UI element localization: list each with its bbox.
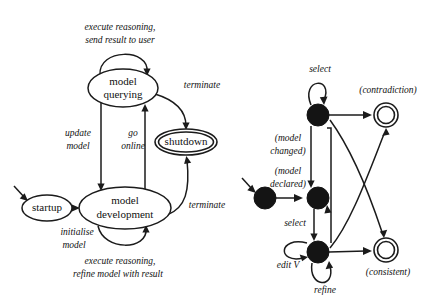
edge-cross-top-to-consistent-path <box>330 120 382 232</box>
edge-label-update-line2: model <box>66 141 90 151</box>
edge-label-model-changed-line1: (model <box>275 133 302 144</box>
edge-terminate-development-arrowhead <box>184 156 191 164</box>
state-model-querying-label-line1: model <box>109 75 137 87</box>
edge-terminate-querying-path <box>155 94 186 126</box>
state-startup-label: startup <box>32 201 62 213</box>
edge-cross-editing-to-contradiction-arrowhead <box>382 128 389 136</box>
edge-to-contradiction <box>329 111 372 119</box>
edge-select-down <box>310 209 317 241</box>
left-diagram-group: model querying model development startup… <box>14 22 225 279</box>
edge-label-model-changed-line2: changed) <box>270 146 305 157</box>
edge-label-execute-send-line2: send result to user <box>85 35 155 45</box>
state-contradiction-inner <box>378 107 395 124</box>
state-selected-node[interactable] <box>307 104 329 126</box>
figure-canvas: model querying model development startup… <box>0 0 427 308</box>
edge-label-update-line1: update <box>65 128 91 138</box>
state-contradiction-node[interactable] <box>374 103 398 127</box>
edge-label-consistent: (consistent) <box>366 267 410 278</box>
state-shutdown-label: shutdown <box>165 135 208 147</box>
state-model-development[interactable]: model development <box>79 187 171 229</box>
edge-refine-self-arrowhead <box>326 261 334 269</box>
edge-label-refine: refine <box>314 285 336 295</box>
edge-to-consistent-path <box>329 251 366 252</box>
edge-label-execute-send-line1: execute reasoning, <box>85 22 156 32</box>
state-model-development-label-line2: development <box>97 208 154 220</box>
edge-label-initialise-line1: initialise <box>60 227 93 237</box>
state-startup[interactable]: startup <box>22 195 72 221</box>
edge-model-declared-arrowhead <box>294 194 303 202</box>
state-initial-node[interactable] <box>254 187 276 209</box>
right-diagram-group: select (contradiction) (model changed) (… <box>242 64 417 295</box>
edge-select-self <box>309 83 328 105</box>
edge-label-go-line2: online <box>121 141 145 151</box>
state-consistent-inner <box>378 242 395 259</box>
edge-label-go-line1: go <box>128 128 138 138</box>
state-diagram-svg: model querying model development startup… <box>0 0 427 308</box>
edge-label-execute-refine-line1: execute reasoning, <box>85 256 156 266</box>
edge-refine-self <box>312 261 333 283</box>
edge-label-terminate-bottom: terminate <box>189 200 225 210</box>
state-declared-node[interactable] <box>307 187 329 209</box>
edge-label-model-declared-line1: (model <box>275 166 302 177</box>
state-model-development-label-line1: model <box>111 194 139 206</box>
edge-label-contradiction: (contradiction) <box>359 85 417 96</box>
edge-to-contradiction-arrowhead <box>363 111 372 119</box>
edge-model-declared <box>276 194 303 202</box>
state-shutdown[interactable]: shutdown <box>155 129 217 155</box>
edge-editing-to-declared-path <box>327 128 331 243</box>
edge-label-initialise-line2: model <box>62 240 86 250</box>
edge-select-down-arrowhead <box>310 234 317 242</box>
edge-entry-startup <box>14 186 28 201</box>
edge-label-edit-v: edit V <box>277 260 301 270</box>
state-editing-node[interactable] <box>307 241 329 263</box>
edge-update-model <box>97 101 104 191</box>
edge-label-execute-refine-line2: refine model with result <box>73 269 163 279</box>
edge-terminate-querying <box>155 94 190 130</box>
edge-label-select-top: select <box>309 64 331 74</box>
edge-model-changed-arrowhead <box>307 181 314 189</box>
edge-cross-editing-to-contradiction-path <box>330 134 384 248</box>
edge-cross-top-to-consistent <box>330 120 387 238</box>
edge-to-consistent <box>329 247 372 255</box>
edge-to-consistent-arrowhead <box>363 247 372 255</box>
edge-edit-v-self <box>284 242 308 261</box>
edge-editing-to-declared <box>324 128 331 243</box>
edge-label-select-mid: select <box>284 218 306 228</box>
state-model-querying-label-line2: querying <box>103 88 143 100</box>
state-model-querying[interactable]: model querying <box>88 69 158 107</box>
edge-model-changed <box>307 126 314 188</box>
state-consistent-node[interactable] <box>374 238 398 262</box>
edge-label-model-declared-line2: declared) <box>270 179 306 190</box>
edge-select-self-arrowhead <box>320 97 328 105</box>
edge-go-online-arrowhead <box>141 104 148 112</box>
edge-entry-initial <box>242 178 256 193</box>
edge-label-terminate-top: terminate <box>184 80 220 90</box>
